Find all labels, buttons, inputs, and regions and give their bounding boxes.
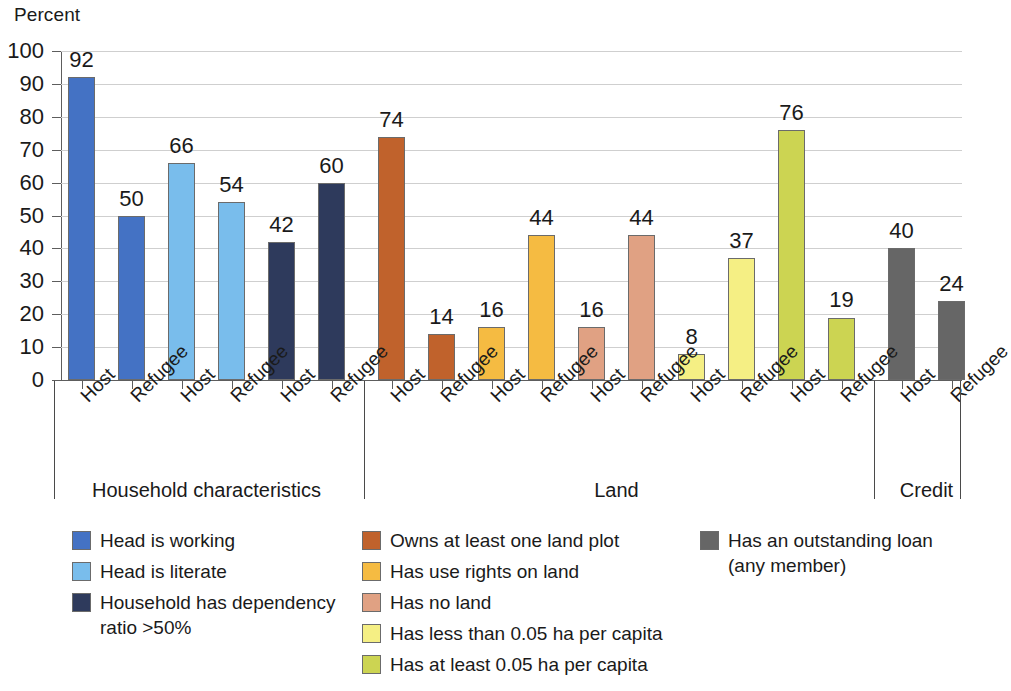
gridline [61, 84, 962, 85]
legend-item[interactable]: Has an outstanding loan (any member) [700, 528, 950, 578]
bar-value-label: 66 [154, 135, 209, 157]
bar-value-label: 40 [874, 220, 929, 242]
legend-swatch-icon [362, 624, 381, 643]
y-axis-tickmark [52, 183, 61, 184]
legend-swatch-icon [72, 562, 91, 581]
y-axis-tick-70: 70 [20, 139, 44, 161]
bar-host-74[interactable] [378, 137, 405, 380]
bar-refugee-37[interactable] [728, 258, 755, 380]
group-separator [364, 381, 365, 499]
legend-swatch-icon [72, 593, 91, 612]
chart-legend: Head is workingHead is literateHousehold… [0, 528, 962, 691]
legend-item[interactable]: Has at least 0.05 ha per capita [362, 652, 692, 677]
bar-value-label: 44 [514, 207, 569, 229]
gridline [61, 281, 962, 282]
bar-value-label: 50 [104, 188, 159, 210]
legend-label: Owns at least one land plot [390, 528, 619, 553]
y-axis-title: Percent [14, 4, 80, 26]
gridline [61, 347, 962, 348]
bar-host-76[interactable] [778, 130, 805, 380]
bar-value-label: 37 [714, 230, 769, 252]
bar-refugee-60[interactable] [318, 183, 345, 380]
legend-item[interactable]: Head is working [72, 528, 352, 553]
group-label-land: Land [594, 480, 639, 500]
y-axis-tickmark [52, 84, 61, 85]
y-axis-tick-60: 60 [20, 172, 44, 194]
bar-value-label: 44 [614, 207, 669, 229]
gridline [61, 216, 962, 217]
bar-refugee-19[interactable] [828, 318, 855, 381]
chart-plot-area: 1009080706050403020100 92506654426074141… [0, 28, 962, 388]
bar-refugee-54[interactable] [218, 202, 245, 380]
y-axis-tick-40: 40 [20, 237, 44, 259]
bar-value-label: 42 [254, 214, 309, 236]
legend-swatch-icon [362, 593, 381, 612]
y-axis-tick-80: 80 [20, 106, 44, 128]
y-axis-tickmark [52, 248, 61, 249]
y-axis-tick-100: 100 [7, 40, 44, 62]
y-axis-tickmark [52, 150, 61, 151]
gridline [61, 183, 962, 184]
chart-grid-and-bars: 92506654426074141644164483776194024 [61, 51, 962, 380]
bar-value-label: 19 [814, 289, 869, 311]
bar-refugee-44[interactable] [528, 235, 555, 380]
legend-swatch-icon [362, 655, 381, 674]
bar-refugee-14[interactable] [428, 334, 455, 380]
gridline [61, 51, 962, 52]
legend-label: Has use rights on land [390, 559, 579, 584]
bar-value-label: 92 [54, 49, 109, 71]
bar-value-label: 74 [364, 109, 419, 131]
bar-host-92[interactable] [68, 77, 95, 380]
legend-swatch-icon [362, 562, 381, 581]
legend-label: Has less than 0.05 ha per capita [390, 621, 663, 646]
y-axis-tick-30: 30 [20, 270, 44, 292]
gridline [61, 117, 962, 118]
bar-refugee-50[interactable] [118, 216, 145, 381]
y-axis-tickmark [52, 314, 61, 315]
legend-swatch-icon [362, 531, 381, 550]
bar-refugee-44[interactable] [628, 235, 655, 380]
legend-label: Has at least 0.05 ha per capita [390, 652, 648, 677]
legend-label: Head is literate [100, 559, 227, 584]
bar-value-label: 16 [564, 299, 619, 321]
y-axis-tick-labels: 1009080706050403020100 [0, 28, 52, 380]
y-axis-tick-90: 90 [20, 73, 44, 95]
y-axis-tickmark [52, 216, 61, 217]
group-label-credit: Credit [900, 480, 953, 500]
legend-swatch-icon [700, 531, 719, 550]
bar-value-label: 16 [464, 299, 519, 321]
legend-item[interactable]: Has less than 0.05 ha per capita [362, 621, 692, 646]
legend-item[interactable]: Head is literate [72, 559, 352, 584]
group-label-household-characteristics: Household characteristics [92, 480, 321, 500]
group-separator [54, 381, 55, 499]
legend-label: Has no land [390, 590, 491, 615]
legend-item[interactable]: Owns at least one land plot [362, 528, 692, 553]
y-axis-tickmark [52, 347, 61, 348]
y-axis-tick-20: 20 [20, 303, 44, 325]
bar-value-label: 76 [764, 102, 819, 124]
bar-refugee-24[interactable] [938, 301, 965, 380]
legend-item[interactable]: Household has dependency ratio >50% [72, 590, 352, 640]
legend-item[interactable]: Has no land [362, 590, 692, 615]
legend-column-3: Has an outstanding loan (any member) [700, 528, 950, 584]
legend-swatch-icon [72, 531, 91, 550]
legend-label: Household has dependency ratio >50% [100, 590, 352, 640]
group-separator [960, 381, 961, 499]
y-axis-tickmark [52, 117, 61, 118]
bar-value-label: 60 [304, 155, 359, 177]
legend-column-2: Owns at least one land plotHas use right… [362, 528, 692, 683]
legend-column-1: Head is workingHead is literateHousehold… [72, 528, 352, 646]
legend-label: Has an outstanding loan (any member) [728, 528, 950, 578]
legend-label: Head is working [100, 528, 235, 553]
legend-item[interactable]: Has use rights on land [362, 559, 692, 584]
gridline [61, 248, 962, 249]
bar-value-label: 54 [204, 174, 259, 196]
y-axis-tick-10: 10 [20, 336, 44, 358]
y-axis-tickmark [52, 281, 61, 282]
x-axis-region: HostRefugeeHostRefugeeHostRefugeeHostRef… [0, 380, 962, 510]
group-separator [874, 381, 875, 499]
bar-value-label: 14 [414, 306, 469, 328]
bar-value-label: 24 [924, 273, 979, 295]
y-axis-tick-50: 50 [20, 205, 44, 227]
